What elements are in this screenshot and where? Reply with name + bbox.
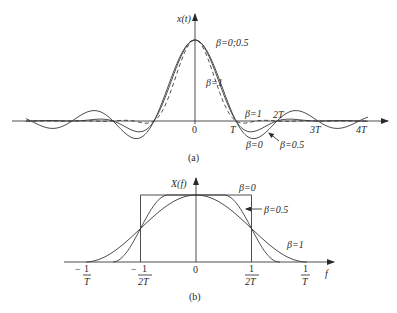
- tick-neg-1-over-T: − 1 T: [75, 263, 91, 287]
- svg-text:T: T: [302, 276, 309, 287]
- svg-text:T: T: [84, 276, 91, 287]
- tick-T: T: [230, 124, 237, 135]
- x-axis-label-f: f: [325, 268, 329, 279]
- tick-3T: 3T: [309, 124, 322, 135]
- panel-a-time-domain: x(t) 0 T 2T 3T 4T β=0;0.5 β=1 β=1 β=0 β=…: [12, 13, 388, 164]
- tick-1-over-2T: 1 2T: [245, 263, 259, 287]
- label-beta-1-main: β=1: [205, 77, 223, 88]
- pointer-beta-0-5: [269, 133, 279, 141]
- label-beta-0-5-b: β=0.5: [263, 204, 288, 215]
- caption-a: (a): [188, 152, 199, 164]
- label-beta-1-tail: β=1: [244, 108, 262, 119]
- svg-text:−: −: [131, 264, 137, 275]
- svg-text:1: 1: [142, 263, 147, 274]
- spectrum-beta-0-5: [113, 195, 280, 262]
- label-beta-1-b: β=1: [286, 239, 304, 250]
- label-beta-0-5-tail: β=0.5: [279, 139, 304, 150]
- tick-2T: 2T: [273, 109, 285, 120]
- diagram-canvas: x(t) 0 T 2T 3T 4T β=0;0.5 β=1 β=1 β=0 β=…: [0, 0, 397, 313]
- tick-4T: 4T: [356, 124, 368, 135]
- svg-text:−: −: [75, 264, 81, 275]
- label-beta-0-0-5: β=0;0.5: [215, 37, 249, 48]
- caption-b: (b): [189, 291, 201, 303]
- svg-text:1: 1: [84, 263, 89, 274]
- tick-0-b: 0: [193, 264, 198, 275]
- svg-text:1: 1: [303, 263, 308, 274]
- y-axis-label-Xf: X(f): [170, 178, 187, 190]
- label-beta-0-b: β=0: [238, 182, 256, 193]
- curve-beta-1-dashed: [26, 40, 368, 123]
- tick-0: 0: [192, 124, 197, 135]
- panel-b-frequency-domain: X(f) f − 1 T − 1 2T 0 1 2T 1 T β=0: [64, 178, 334, 303]
- tick-neg-1-over-2T: − 1 2T: [131, 263, 152, 287]
- label-beta-0-tail: β=0: [245, 139, 263, 150]
- svg-text:2T: 2T: [245, 276, 257, 287]
- svg-text:2T: 2T: [138, 276, 150, 287]
- svg-text:1: 1: [249, 263, 254, 274]
- tick-1-over-T: 1 T: [301, 263, 310, 287]
- y-axis-label-xt: x(t): [176, 13, 192, 25]
- curve-beta-0-5: [26, 40, 368, 132]
